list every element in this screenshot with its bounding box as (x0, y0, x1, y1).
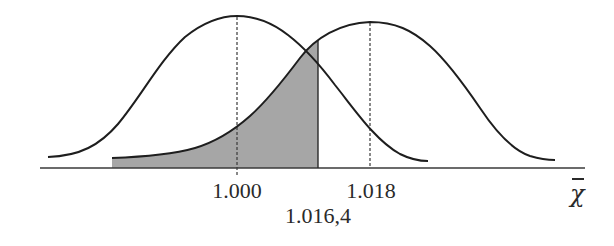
mean-label-alternative: 1.018 (346, 180, 396, 202)
shaded-beta-region (112, 40, 318, 168)
critical-value-label: 1.016,4 (285, 205, 351, 227)
axis-label-text: χ (570, 180, 585, 208)
axis-label-xbar: χ (570, 182, 585, 206)
overbar (572, 178, 584, 180)
mean-label-null: 1.000 (212, 180, 262, 202)
